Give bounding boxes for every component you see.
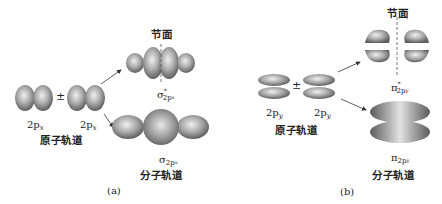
atomic-label-b1: 2py — [266, 107, 283, 122]
nodal-plane-label-a: 节面 — [151, 29, 172, 40]
atomic-label-b2: 2py — [314, 107, 331, 122]
sigma-star-label: σ*2px — [157, 85, 175, 104]
2px-orbital-left — [15, 85, 53, 111]
sigma-label: σ2px — [159, 154, 178, 169]
atomic-label-a2: 2px — [80, 119, 97, 134]
pi-star-2py-orbital — [365, 17, 429, 75]
molecular-orbitals-caption-a: 分子轨道 — [140, 170, 182, 181]
atomic-label-a1: 2px — [27, 119, 44, 134]
nodal-plane-label-b: 节面 — [387, 8, 408, 19]
atomic-orbitals-caption-a: 原子轨道 — [40, 135, 82, 146]
panel-b-caption: (b) — [340, 186, 354, 197]
atomic-orbitals-caption-b: 原子轨道 — [275, 125, 317, 136]
2py-orbital-left — [258, 74, 290, 99]
plus-minus-operator-b: ± — [292, 80, 301, 91]
pi-2py-orbital — [370, 101, 430, 143]
2py-orbital-right — [303, 74, 335, 99]
panel-a-caption: (a) — [107, 185, 121, 196]
molecular-orbitals-caption-b: 分子轨道 — [372, 170, 414, 181]
sigma-star-2px-orbital — [126, 44, 195, 84]
plus-minus-operator-a: ± — [56, 91, 65, 102]
pi-star-label: π*2py — [391, 78, 408, 97]
2px-orbital-right — [67, 85, 105, 111]
pi-label: π2py — [391, 152, 409, 167]
sigma-2px-orbital — [112, 109, 209, 145]
panel-b-arrows — [338, 62, 366, 110]
